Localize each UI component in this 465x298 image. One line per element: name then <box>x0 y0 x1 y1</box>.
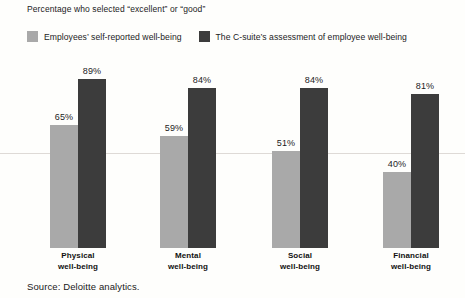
category-label-line2: well-being <box>168 262 208 273</box>
bar-groups: 65% 89% 59% 84% <box>0 58 465 248</box>
bar-value-self-mental: 59% <box>165 123 183 133</box>
bar-self-physical: 65% <box>50 125 78 249</box>
bar-self-social: 51% <box>272 151 300 248</box>
chart-legend: Employees’ self-reported well-being The … <box>27 31 407 42</box>
bar-csuite-financial: 81% <box>411 94 439 248</box>
bar-self-financial: 40% <box>383 172 411 248</box>
bar-value-csuite-mental: 84% <box>193 75 211 85</box>
chart-figure: Percentage who selected “excellent” or “… <box>0 0 465 298</box>
source-note: Source: Deloitte analytics. <box>27 281 140 292</box>
bar-csuite-social: 84% <box>300 88 328 248</box>
legend-swatch-icon-self-reported <box>27 31 38 42</box>
bar-pair: 65% 89% <box>50 58 106 248</box>
category-label-line2: well-being <box>280 262 320 273</box>
category-label-mental: Mental well-being <box>168 251 208 272</box>
category-label-line1: Physical <box>58 251 98 262</box>
legend-item-self-reported: Employees’ self-reported well-being <box>27 31 182 42</box>
category-label-line2: well-being <box>58 262 98 273</box>
bar-csuite-physical: 89% <box>78 79 106 248</box>
bar-pair: 51% 84% <box>272 58 328 248</box>
category-label-line1: Social <box>280 251 320 262</box>
bar-value-csuite-financial: 81% <box>416 81 434 91</box>
category-label-physical: Physical well-being <box>58 251 98 272</box>
bar-pair: 59% 84% <box>160 58 216 248</box>
plot-area: 65% 89% 59% 84% <box>0 58 465 248</box>
bar-value-self-social: 51% <box>277 138 295 148</box>
bar-pair: 40% 81% <box>383 58 439 248</box>
legend-label-csuite: The C-suite’s assessment of employee wel… <box>216 32 407 42</box>
category-label-line2: well-being <box>391 262 431 273</box>
legend-item-csuite: The C-suite’s assessment of employee wel… <box>199 31 407 42</box>
category-label-line1: Financial <box>391 251 431 262</box>
category-label-social: Social well-being <box>280 251 320 272</box>
legend-swatch-icon-csuite <box>199 31 210 42</box>
category-label-line1: Mental <box>168 251 208 262</box>
category-label-financial: Financial well-being <box>391 251 431 272</box>
bar-csuite-mental: 84% <box>188 88 216 248</box>
bar-value-self-financial: 40% <box>388 159 406 169</box>
legend-label-self-reported: Employees’ self-reported well-being <box>44 32 182 42</box>
bar-value-csuite-social: 84% <box>305 75 323 85</box>
bar-self-mental: 59% <box>160 136 188 248</box>
bar-value-csuite-physical: 89% <box>83 66 101 76</box>
bar-value-self-physical: 65% <box>55 112 73 122</box>
chart-title: Percentage who selected “excellent” or “… <box>27 4 205 14</box>
category-axis-labels: Physical well-being Mental well-being So… <box>0 251 465 279</box>
